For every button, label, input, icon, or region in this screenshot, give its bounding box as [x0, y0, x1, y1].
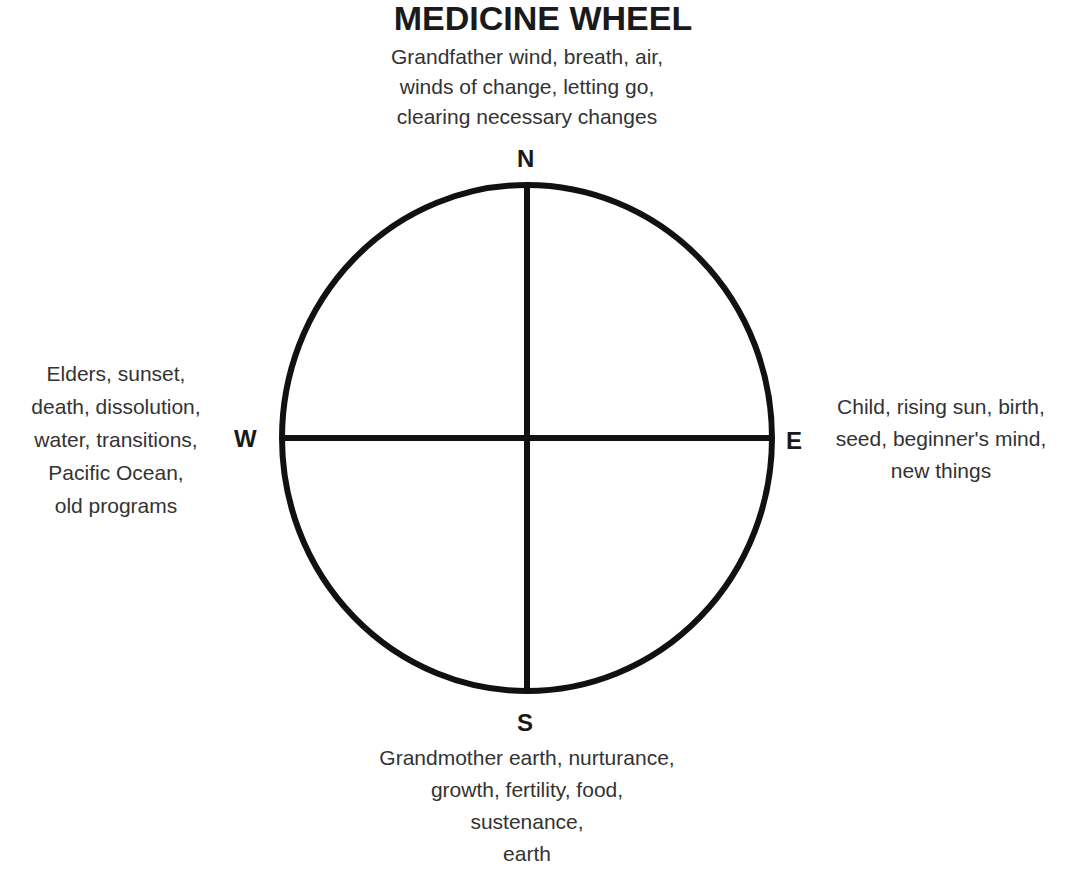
south-desc-line: growth, fertility, food,	[327, 774, 727, 806]
south-desc-line: Grandmother earth, nurturance,	[327, 742, 727, 774]
north-desc-line: winds of change, letting go,	[327, 72, 727, 102]
west-desc-line: death, dissolution,	[0, 390, 232, 423]
east-desc-line: new things	[816, 455, 1066, 487]
east-label: E	[786, 428, 802, 454]
west-desc-line: Pacific Ocean,	[0, 456, 232, 489]
west-label: W	[234, 426, 257, 452]
west-desc-line: old programs	[0, 489, 232, 522]
east-description: Child, rising sun, birth, seed, beginner…	[816, 391, 1066, 487]
east-desc-line: Child, rising sun, birth,	[816, 391, 1066, 423]
south-desc-line: sustenance,	[327, 806, 727, 838]
north-desc-line: clearing necessary changes	[327, 102, 727, 132]
north-description: Grandfather wind, breath, air, winds of …	[327, 42, 727, 132]
west-description: Elders, sunset, death, dissolution, wate…	[0, 357, 232, 522]
west-desc-line: Elders, sunset,	[0, 357, 232, 390]
south-description: Grandmother earth, nurturance, growth, f…	[327, 742, 727, 870]
south-desc-line: earth	[327, 838, 727, 870]
north-desc-line: Grandfather wind, breath, air,	[327, 42, 727, 72]
west-desc-line: water, transitions,	[0, 423, 232, 456]
south-label: S	[517, 710, 533, 736]
east-desc-line: seed, beginner's mind,	[816, 423, 1066, 455]
north-label: N	[517, 146, 534, 172]
